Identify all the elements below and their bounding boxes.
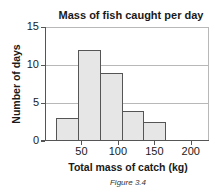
x-axis-label: Total mass of catch (kg) xyxy=(46,161,210,173)
histogram-bar xyxy=(56,118,79,141)
x-tick-label: 200 xyxy=(176,145,206,157)
x-tick-label: 150 xyxy=(139,145,169,157)
gridline-5 xyxy=(45,103,209,104)
y-tick-label: 10 xyxy=(21,59,39,70)
chart-title: Mass of fish caught per day xyxy=(46,9,216,21)
y-tick xyxy=(41,141,45,142)
y-tick-label: 15 xyxy=(21,21,39,32)
y-tick xyxy=(41,27,45,28)
plot-area: 051015 xyxy=(45,27,209,141)
y-axis-label: Number of days xyxy=(10,39,22,129)
gridline-10 xyxy=(45,65,209,66)
y-tick-label: 0 xyxy=(21,135,39,146)
y-tick xyxy=(41,65,45,66)
histogram-bar xyxy=(122,111,145,141)
histogram-bar xyxy=(78,50,101,141)
x-tick-label: 100 xyxy=(103,145,133,157)
y-axis xyxy=(45,27,46,141)
figure-caption: Figure 3.4 xyxy=(46,178,210,187)
histogram-bar xyxy=(100,73,123,141)
x-axis xyxy=(41,140,209,141)
histogram-bar xyxy=(143,122,166,141)
y-tick xyxy=(41,103,45,104)
y-tick-label: 5 xyxy=(21,97,39,108)
x-tick-label: 50 xyxy=(66,145,96,157)
